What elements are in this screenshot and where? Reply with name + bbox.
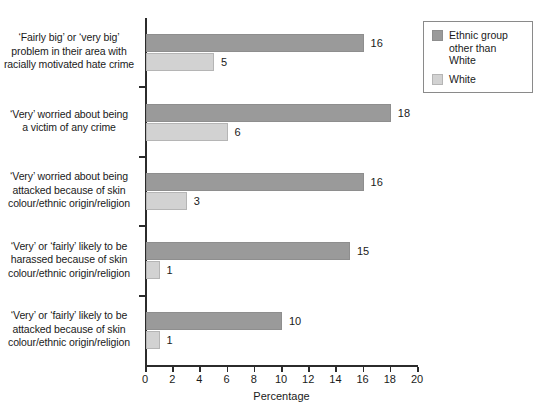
bar-value-label: 6 xyxy=(235,126,241,138)
y-axis-tick xyxy=(139,156,145,158)
x-axis-tick xyxy=(145,367,147,372)
legend-swatch-dark xyxy=(432,30,443,41)
x-axis-tick-label: 2 xyxy=(157,373,187,385)
category-label-line: problem in their area with xyxy=(0,45,138,59)
y-axis-tick xyxy=(139,295,145,297)
x-axis-tick-label: 20 xyxy=(402,373,432,385)
x-axis-tick xyxy=(308,367,310,372)
legend-item[interactable]: Ethnic groupother than White xyxy=(432,29,526,67)
bar-white xyxy=(146,53,214,71)
bar-chart: ‘Fairly big’ or ‘very big’problem in the… xyxy=(0,0,539,411)
category-label-line: colour/ethnic origin/religion xyxy=(0,336,138,350)
category-axis-labels: ‘Fairly big’ or ‘very big’problem in the… xyxy=(0,0,140,411)
category-label-line: ‘Fairly big’ or ‘very big’ xyxy=(0,31,138,45)
y-axis-tick xyxy=(139,225,145,227)
bar-value-label: 1 xyxy=(167,334,173,346)
category-label-line: ‘Very’ or ‘fairly’ likely to be xyxy=(0,309,138,323)
category-label: ‘Very’ worried about beingattacked becau… xyxy=(0,170,138,211)
x-axis-tick xyxy=(227,367,229,372)
bar-value-label: 10 xyxy=(289,315,301,327)
category-label-line: ‘Very’ or ‘fairly’ likely to be xyxy=(0,240,138,254)
x-axis-tick-label: 14 xyxy=(320,373,350,385)
y-axis-tick xyxy=(139,86,145,88)
x-axis-tick xyxy=(199,367,201,372)
bar-ethnic-group-other-than-white xyxy=(146,34,364,52)
category-label-line: harassed because of skin xyxy=(0,253,138,267)
bar-ethnic-group-other-than-white xyxy=(146,104,391,122)
bar-value-label: 16 xyxy=(371,176,383,188)
x-axis-tick-label: 18 xyxy=(375,373,405,385)
category-label-line: a victim of any crime xyxy=(0,121,138,135)
bar-ethnic-group-other-than-white xyxy=(146,242,350,260)
x-axis-tick-label: 6 xyxy=(212,373,242,385)
bar-white xyxy=(146,331,160,349)
bar-value-label: 5 xyxy=(221,56,227,68)
x-axis-tick-label: 10 xyxy=(266,373,296,385)
category-label-line: colour/ethnic origin/religion xyxy=(0,197,138,211)
legend-swatch-light xyxy=(432,74,443,85)
bar-white xyxy=(146,123,228,141)
category-label: ‘Very’ worried about beinga victim of an… xyxy=(0,108,138,135)
x-axis-title: Percentage xyxy=(145,390,418,402)
x-axis-tick xyxy=(281,367,283,372)
x-axis-tick xyxy=(254,367,256,372)
bar-value-label: 18 xyxy=(398,107,410,119)
legend: Ethnic groupother than WhiteWhite xyxy=(423,21,533,93)
category-label-line: colour/ethnic origin/religion xyxy=(0,267,138,281)
category-label-line: ‘Very’ worried about being xyxy=(0,108,138,122)
legend-label-line: Ethnic group xyxy=(449,29,526,42)
x-axis-tick-label: 8 xyxy=(239,373,269,385)
category-label: ‘Very’ or ‘fairly’ likely to beharassed … xyxy=(0,240,138,281)
legend-item[interactable]: White xyxy=(432,73,526,86)
legend-label-line: other than White xyxy=(449,42,526,67)
x-axis-tick xyxy=(417,367,419,372)
plot-area: 02468101214161820165186163151101 xyxy=(145,18,417,365)
bar-value-label: 15 xyxy=(357,245,369,257)
x-axis-tick xyxy=(335,367,337,372)
legend-label: White xyxy=(449,73,476,86)
bar-value-label: 1 xyxy=(167,264,173,276)
category-label: ‘Fairly big’ or ‘very big’problem in the… xyxy=(0,31,138,72)
x-axis-tick xyxy=(172,367,174,372)
category-label-line: ‘Very’ worried about being xyxy=(0,170,138,184)
x-axis-tick-label: 12 xyxy=(293,373,323,385)
bar-white xyxy=(146,192,187,210)
x-axis-tick-label: 0 xyxy=(130,373,160,385)
legend-label-line: White xyxy=(449,73,476,86)
bar-ethnic-group-other-than-white xyxy=(146,312,282,330)
category-label-line: attacked because of skin xyxy=(0,323,138,337)
category-label-line: attacked because of skin xyxy=(0,184,138,198)
category-label: ‘Very’ or ‘fairly’ likely to beattacked … xyxy=(0,309,138,350)
legend-label: Ethnic groupother than White xyxy=(449,29,526,67)
bar-ethnic-group-other-than-white xyxy=(146,173,364,191)
category-label-line: racially motivated hate crime xyxy=(0,58,138,72)
x-axis-tick xyxy=(390,367,392,372)
x-axis-tick-label: 4 xyxy=(184,373,214,385)
x-axis-tick xyxy=(363,367,365,372)
bar-white xyxy=(146,261,160,279)
bar-value-label: 16 xyxy=(371,37,383,49)
x-axis-tick-label: 16 xyxy=(348,373,378,385)
bar-value-label: 3 xyxy=(194,195,200,207)
